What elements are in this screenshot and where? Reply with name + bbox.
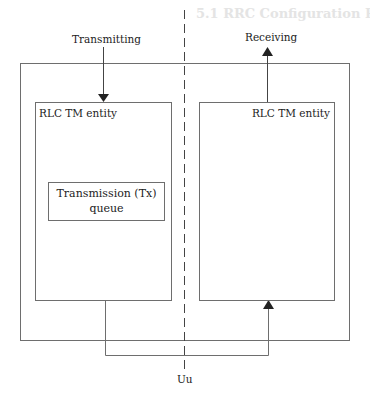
left-rlc-tm-entity: RLC TM entity Transmission (Tx) queue bbox=[35, 102, 172, 301]
uu-interface-label: Uu bbox=[177, 373, 193, 385]
tx-queue-line2: queue bbox=[49, 201, 164, 216]
right-rlc-tm-entity: RLC TM entity bbox=[199, 102, 335, 301]
tx-to-rx-connector bbox=[106, 300, 269, 356]
left-entity-label: RLC TM entity bbox=[39, 107, 117, 119]
right-entity-label: RLC TM entity bbox=[252, 107, 330, 119]
tx-queue-box: Transmission (Tx) queue bbox=[48, 182, 165, 221]
transmitting-arrowhead-icon bbox=[98, 94, 109, 102]
connector-arrowhead-icon bbox=[263, 300, 274, 309]
receiving-arrowhead-icon bbox=[262, 47, 273, 56]
receiving-label: Receiving bbox=[245, 31, 297, 43]
transmitting-label: Transmitting bbox=[72, 33, 141, 45]
tx-queue-line1: Transmission (Tx) bbox=[49, 186, 164, 201]
